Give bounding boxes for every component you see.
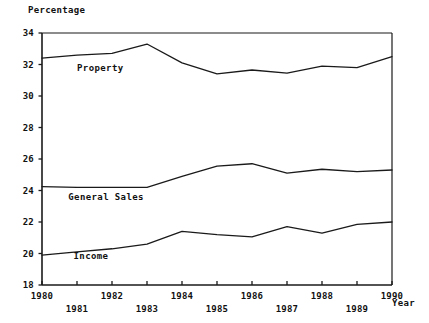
x-tick-label-1980: 1980 <box>22 291 62 301</box>
series-label-income: Income <box>74 251 109 261</box>
x-tick-label-1986: 1986 <box>232 291 272 301</box>
x-tick-label-1984: 1984 <box>162 291 202 301</box>
x-tick-label-1985: 1985 <box>197 304 237 314</box>
y-tick-label-28: 28 <box>12 123 34 133</box>
y-tick-label-22: 22 <box>12 217 34 227</box>
x-tick-label-1981: 1981 <box>57 304 97 314</box>
series-label-general-sales: General Sales <box>68 192 144 202</box>
y-tick-label-20: 20 <box>12 249 34 259</box>
x-tick-label-1983: 1983 <box>127 304 167 314</box>
x-tick-label-1990: 1990 <box>372 291 412 301</box>
plot-area <box>0 0 429 323</box>
chart-container: Percentage Year 182022242628303234 19801… <box>0 0 429 323</box>
x-tick-label-1982: 1982 <box>92 291 132 301</box>
y-tick-label-30: 30 <box>12 91 34 101</box>
x-tick-label-1988: 1988 <box>302 291 342 301</box>
series-line-general-sales <box>42 164 392 188</box>
series-label-property: Property <box>77 63 124 73</box>
y-tick-label-18: 18 <box>12 280 34 290</box>
x-tick-label-1987: 1987 <box>267 304 307 314</box>
y-tick-label-24: 24 <box>12 186 34 196</box>
y-tick-label-32: 32 <box>12 60 34 70</box>
y-tick-label-26: 26 <box>12 154 34 164</box>
x-tick-label-1989: 1989 <box>337 304 377 314</box>
y-tick-label-34: 34 <box>12 28 34 38</box>
series-lines <box>42 44 392 255</box>
